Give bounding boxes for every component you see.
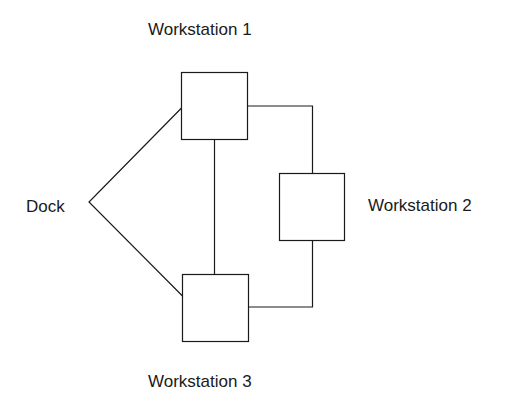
workstation-2-box	[280, 174, 345, 241]
workstation-1-box	[182, 73, 248, 140]
edge-ws1-ws2	[248, 106, 313, 174]
edge-ws2-ws3	[249, 241, 313, 308]
workstation-3-label: Workstation 3	[148, 373, 252, 390]
workstation-1-label: Workstation 1	[148, 21, 252, 38]
workstation-3-box	[183, 275, 249, 342]
workstation-2-label: Workstation 2	[368, 197, 472, 214]
dock-label: Dock	[26, 198, 65, 215]
edge-dock-ws1-ws3	[89, 108, 183, 296]
layout-diagram: Workstation 1 Workstation 2 Workstation …	[0, 0, 524, 408]
